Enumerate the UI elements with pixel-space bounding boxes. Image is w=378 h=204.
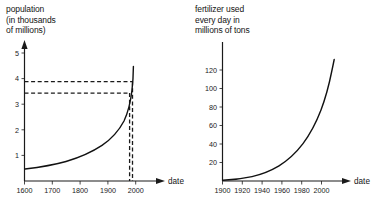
fertilizer-xtick-label-1940: 1940: [254, 186, 270, 195]
population-ytick-label-3: 3: [15, 100, 19, 109]
population-xtick-label-1700: 1700: [44, 186, 60, 195]
population-ytick-label-5: 5: [15, 49, 19, 58]
population-ytick-label-1: 1: [15, 151, 19, 160]
fertilizer-ytick-label-120: 120: [205, 66, 217, 75]
fertilizer-x-axis-label: date: [354, 177, 370, 186]
population-plot-area: 1 2 3 4 5 1600 1700 1800 1900 2000 date: [0, 0, 189, 204]
population-x-axis-label: date: [168, 177, 184, 186]
population-xtick-label-1900: 1900: [100, 186, 116, 195]
population-xtick-label-2000: 2000: [128, 186, 144, 195]
fertilizer-xtick-label-1960: 1960: [274, 186, 290, 195]
population-xtick-label-1800: 1800: [72, 186, 88, 195]
fertilizer-xtick-label-1900: 1900: [215, 186, 231, 195]
fertilizer-data-curve: [223, 60, 334, 181]
chart-panel-fertilizer: fertilizer used every day in millions of…: [189, 0, 378, 204]
fertilizer-ytick-label-60: 60: [209, 121, 217, 130]
population-x-axis-arrowhead: [156, 178, 165, 184]
fertilizer-ytick-label-80: 80: [209, 103, 217, 112]
fertilizer-plot-area: 20 40 60 80 100 120 1900 1920 1940 1960 …: [189, 0, 378, 204]
fertilizer-x-axis-arrowhead: [342, 178, 351, 184]
population-xtick-label-1600: 1600: [17, 186, 33, 195]
figure-two-exponential-growth-charts: population (in thousands of millions) 1 …: [0, 0, 378, 204]
fertilizer-xtick-label-1980: 1980: [294, 186, 310, 195]
fertilizer-ytick-label-100: 100: [205, 84, 217, 93]
fertilizer-ytick-label-40: 40: [209, 140, 217, 149]
chart-panel-population: population (in thousands of millions) 1 …: [0, 0, 189, 204]
fertilizer-xtick-label-1920: 1920: [234, 186, 250, 195]
population-y-axis-arrowhead: [21, 40, 27, 49]
fertilizer-xtick-label-2000: 2000: [314, 186, 330, 195]
fertilizer-ytick-label-20: 20: [209, 158, 217, 167]
population-ytick-label-4: 4: [15, 74, 19, 83]
population-ytick-label-2: 2: [15, 126, 19, 135]
